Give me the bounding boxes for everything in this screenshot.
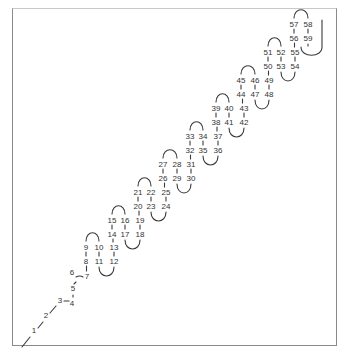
residue-label: 29 [173,174,182,183]
connector-line [177,184,191,193]
connector-line [99,267,114,276]
residue-label: 28 [173,160,182,169]
residue-label: 44 [237,90,246,99]
residue-label: 3 [58,296,63,305]
residue-label: 54 [291,62,300,71]
residue-label: 15 [108,216,117,225]
connector-line [38,322,43,328]
connector-line [50,306,56,313]
connector-line [22,337,30,347]
residue-label: 23 [147,202,156,211]
connector-line [125,240,140,249]
connector-line [241,66,255,74]
connector-line [229,128,244,137]
residue-label: 21 [134,188,143,197]
residue-label: 4 [70,299,75,308]
residue-label: 49 [265,76,274,85]
connector-line [190,122,203,130]
connector-line [138,178,151,186]
residue-label: 57 [290,20,299,29]
residue-label: 17 [121,230,130,239]
residue-label: 36 [214,146,223,155]
residue-label: 30 [187,174,196,183]
connector-line [203,156,218,165]
residue-label: 13 [110,243,119,252]
residue-label: 8 [84,257,89,266]
residue-label: 6 [70,268,75,277]
residue-label: 37 [214,132,223,141]
connector-line [268,38,281,46]
residue-label: 11 [95,257,104,266]
connector-line [294,10,308,18]
connector-line [163,150,177,158]
residue-label: 46 [251,76,260,85]
residue-label: 41 [225,118,234,127]
residue-label: 24 [162,202,171,211]
residue-label: 1 [32,326,37,335]
residue-label: 35 [199,146,208,155]
residue-label: 27 [159,160,168,169]
residue-label: 58 [304,20,313,29]
residue-label: 12 [110,257,119,266]
connector-line [76,276,83,277]
residue-label: 34 [199,132,208,141]
residue-label: 50 [264,62,273,71]
residue-label: 32 [186,146,195,155]
residue-label: 33 [186,132,195,141]
residue-label: 9 [84,243,89,252]
residue-labels: 1234567891011121314151617181920212223242… [32,20,313,335]
hairpin-chain: 1234567891011121314151617181920212223242… [0,0,346,353]
residue-label: 40 [225,104,234,113]
residue-label: 18 [136,230,145,239]
connector-line [281,72,295,81]
residue-label: 45 [237,76,246,85]
residue-label: 7 [85,272,90,281]
residue-label: 2 [44,311,49,320]
diagram-canvas: 1234567891011121314151617181920212223242… [0,0,346,353]
residue-label: 52 [277,48,286,57]
residue-label: 14 [108,230,117,239]
residue-label: 43 [240,104,249,113]
residue-label: 19 [136,216,145,225]
residue-label: 26 [159,174,168,183]
connector-line [255,100,269,109]
residue-label: 53 [277,62,286,71]
connector-line [216,94,229,102]
residue-label: 42 [240,118,249,127]
connector-line [112,206,125,214]
connector-line [151,212,166,221]
residue-label: 56 [290,34,299,43]
residue-label: 10 [95,243,104,252]
residue-label: 39 [212,104,221,113]
residue-label: 20 [134,202,143,211]
residue-label: 38 [212,118,221,127]
residue-label: 55 [291,48,300,57]
residue-label: 51 [264,48,273,57]
residue-label: 31 [187,160,196,169]
residue-label: 25 [162,188,171,197]
residue-label: 59 [304,34,313,43]
residue-label: 16 [121,216,130,225]
residue-label: 5 [71,284,76,293]
residue-label: 47 [251,90,260,99]
connector-line [86,233,99,241]
residue-label: 48 [265,90,274,99]
residue-label: 22 [147,188,156,197]
